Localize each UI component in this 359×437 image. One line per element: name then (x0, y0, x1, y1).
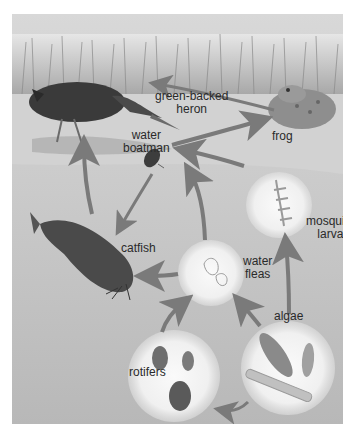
label-catfish: catfish (121, 242, 156, 255)
label-frog-line1: frog (272, 130, 293, 143)
label-heron-line2: heron (155, 103, 228, 116)
mosquito-larva-circle (246, 172, 312, 238)
arrow-fleas-to-catfish (145, 274, 178, 276)
label-water-fleas-line2: fleas (243, 268, 272, 281)
food-web-scene (12, 14, 343, 424)
label-mosquito-larva-line2: larva (306, 228, 343, 241)
label-catfish-line1: catfish (121, 242, 156, 255)
label-water-boatman: water boatman (123, 129, 170, 155)
water-fleas-circle (178, 240, 244, 306)
label-water-fleas: water fleas (243, 255, 272, 281)
label-rotifers-line1: rotifers (129, 366, 166, 379)
label-mosquito-larva: mosquito larva (306, 215, 343, 241)
label-algae: algae (274, 310, 303, 323)
label-algae-line1: algae (274, 310, 303, 323)
label-heron: green-backed heron (155, 90, 228, 116)
label-rotifers: rotifers (129, 366, 166, 379)
food-web-diagram: green-backed heron frog water boatman mo… (12, 14, 343, 424)
label-frog: frog (272, 130, 293, 143)
label-water-boatman-line2: boatman (123, 142, 170, 155)
